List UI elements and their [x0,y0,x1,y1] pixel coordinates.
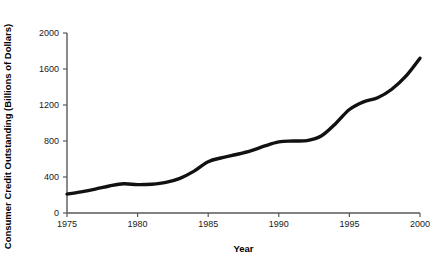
y-tick-label: 0 [54,208,59,218]
y-tick-label: 2000 [39,28,59,38]
y-tick-label: 1200 [39,100,59,110]
x-tick-label: 1985 [198,219,218,229]
chart-container: Consumer Credit Outstanding (Billions of… [0,0,442,273]
plot-area [0,0,442,273]
x-tick-label: 2000 [410,219,430,229]
y-tick-label: 1600 [39,64,59,74]
x-tick-label: 1975 [57,219,77,229]
y-tick-label: 800 [44,136,59,146]
axis-ticks [63,33,420,217]
axis-lines [67,33,420,213]
x-tick-label: 1990 [269,219,289,229]
data-line-consumer-credit [67,58,420,194]
y-tick-label: 400 [44,172,59,182]
x-tick-label: 1980 [128,219,148,229]
x-tick-label: 1995 [339,219,359,229]
